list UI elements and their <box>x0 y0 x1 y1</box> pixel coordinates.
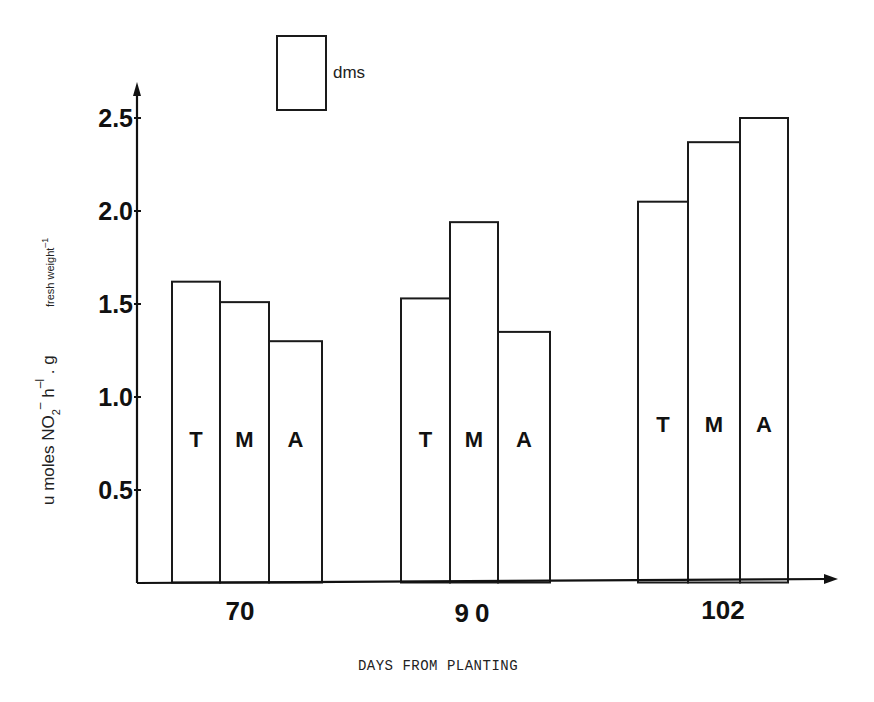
bar-series-label: T <box>419 427 433 452</box>
bar-series-label: T <box>189 427 203 452</box>
bar-series-label: M <box>235 427 253 452</box>
y-label-mid: . g <box>39 355 58 379</box>
legend: dms <box>277 36 365 110</box>
bar-A-90 <box>498 332 550 583</box>
y-label-small: fresh weight <box>44 248 56 307</box>
bar-series-label: A <box>288 427 304 452</box>
x-axis-label: DAYS FROM PLANTING <box>358 658 518 674</box>
y-axis-arrow-icon <box>133 82 141 96</box>
svg-text:fresh weight–1: fresh weight–1 <box>40 238 56 307</box>
y-label-sup: –l <box>33 379 47 388</box>
bar-series-label: A <box>516 427 532 452</box>
bar-M-90 <box>450 222 498 582</box>
y-tick-label: 1.0 <box>98 383 133 411</box>
legend-label: dms <box>333 63 365 82</box>
bar-A-70 <box>269 341 322 582</box>
svg-text:u moles NO2– h–l . g: u moles NO2– h–l . g <box>33 355 62 505</box>
x-tick-label: 90 <box>455 598 496 628</box>
x-tick-label: 70 <box>226 596 255 626</box>
bar-series-label: T <box>656 412 670 437</box>
x-axis-arrow-icon <box>824 574 838 584</box>
x-tick-labels: 70 90 102 <box>226 595 745 628</box>
y-tick-label: 0.5 <box>98 476 133 504</box>
y-axis-label: u moles NO2– h–l . g fresh weight–1 <box>33 238 62 505</box>
bar-series-label: M <box>465 427 483 452</box>
legend-swatch <box>277 36 326 110</box>
y-label-sub: 2 <box>50 409 62 415</box>
y-tick-label: 1.5 <box>98 290 133 318</box>
y-label-mid: h <box>39 388 58 402</box>
bar-chart: dms TMATMATMA 0.51.01.52.02.5 70 90 102 … <box>0 0 874 702</box>
bar-M-102 <box>688 142 740 582</box>
bar-T-102 <box>638 202 688 583</box>
y-label-main: u moles NO <box>39 415 58 505</box>
bar-series-label: M <box>705 412 723 437</box>
y-tick-label: 2.5 <box>98 104 133 132</box>
y-ticks: 0.51.01.52.02.5 <box>98 104 141 504</box>
x-tick-label: 102 <box>701 595 744 625</box>
bar-series-label: A <box>756 412 772 437</box>
bars: TMATMATMA <box>172 118 788 583</box>
y-label-sup: –1 <box>40 238 50 248</box>
y-tick-label: 2.0 <box>98 197 133 225</box>
bar-A-102 <box>740 118 788 583</box>
